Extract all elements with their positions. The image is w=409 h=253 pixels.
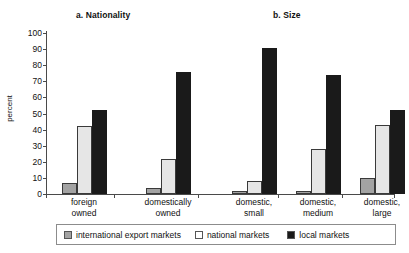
y-tick-label: 30 <box>12 142 42 151</box>
bar <box>62 183 77 194</box>
y-tick-mark <box>43 162 46 163</box>
legend-item-local-markets: local markets <box>287 230 349 240</box>
legend-item-national-markets: national markets <box>195 230 269 240</box>
legend-label: national markets <box>207 230 269 240</box>
legend-swatch-icon <box>64 231 72 239</box>
bar-group <box>62 33 107 194</box>
bar <box>360 178 375 194</box>
bar-group <box>146 33 191 194</box>
bar <box>232 191 247 194</box>
y-tick-label: 80 <box>12 61 42 70</box>
y-tick-label: 40 <box>12 126 42 135</box>
y-tick-label: 70 <box>12 77 42 86</box>
bar <box>326 75 341 194</box>
panel-a-title: a. Nationality <box>76 10 130 20</box>
y-tick-mark <box>43 97 46 98</box>
y-tick-mark <box>43 81 46 82</box>
y-tick-mark <box>43 130 46 131</box>
legend-swatch-icon <box>287 231 295 239</box>
bar <box>146 188 161 194</box>
plot-area: 0102030405060708090100 <box>46 33 394 194</box>
bar <box>311 149 326 194</box>
legend-item-international-export-markets: international export markets <box>64 230 181 240</box>
bar-group <box>360 33 405 194</box>
y-tick-label: 0 <box>12 190 42 199</box>
bar-group <box>296 33 341 194</box>
bar <box>247 181 262 194</box>
y-tick-mark <box>43 33 46 34</box>
y-tick-mark <box>43 178 46 179</box>
bar <box>262 48 277 195</box>
bar <box>296 191 311 194</box>
y-tick-label: 100 <box>12 29 42 38</box>
y-tick-label: 50 <box>12 110 42 119</box>
y-tick-label: 90 <box>12 45 42 54</box>
x-category-label: domestically owned <box>123 197 213 219</box>
legend-label: local markets <box>299 230 349 240</box>
x-category-label: foreign owned <box>39 197 129 219</box>
chart-legend: international export markets national ma… <box>56 224 396 245</box>
y-tick-mark <box>43 114 46 115</box>
y-tick-mark <box>43 146 46 147</box>
y-tick-mark <box>43 49 46 50</box>
y-tick-label: 20 <box>12 158 42 167</box>
bar <box>77 126 92 194</box>
bar <box>92 110 107 194</box>
legend-label: international export markets <box>76 230 181 240</box>
bar <box>375 125 390 194</box>
y-tick-label: 60 <box>12 93 42 102</box>
y-tick-mark <box>43 65 46 66</box>
bar-group <box>232 33 277 194</box>
y-tick-label: 10 <box>12 174 42 183</box>
legend-swatch-icon <box>195 231 203 239</box>
x-category-label: domestic, large <box>337 197 409 219</box>
bar <box>161 159 176 194</box>
bar <box>390 110 405 194</box>
bar <box>176 72 191 194</box>
y-axis-line <box>46 31 47 194</box>
panel-b-title: b. Size <box>273 10 301 20</box>
